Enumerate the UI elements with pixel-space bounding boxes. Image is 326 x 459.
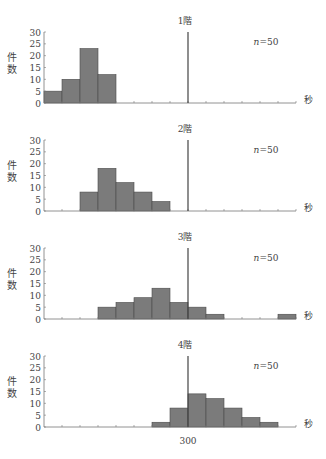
histogram-bar — [170, 408, 188, 427]
sample-size-label: n=50 — [254, 37, 279, 47]
histogram-bar — [152, 202, 170, 211]
histogram-bar — [116, 183, 134, 211]
histogram-bar — [242, 418, 260, 427]
histogram-figure: 1階n=50051015202530件数秒2階n=50051015202530件… — [0, 0, 326, 459]
histogram-bars — [152, 394, 278, 427]
y-axis-label-char: 件 — [7, 268, 17, 279]
histogram-bar — [152, 288, 170, 319]
histogram-bar — [188, 394, 206, 427]
y-tick-label: 10 — [30, 399, 42, 409]
histogram-bar — [80, 192, 98, 211]
sample-size-label: n=50 — [254, 361, 279, 371]
histogram-bars — [98, 288, 296, 319]
y-axis-label-char: 数 — [7, 63, 17, 75]
histogram-bar — [134, 298, 152, 319]
histogram-bar — [116, 302, 134, 319]
y-tick-label: 5 — [35, 303, 41, 313]
histogram-panel-floor-3: 3階n=50051015202530件数秒 — [7, 232, 313, 325]
panel-title: 4階 — [178, 340, 193, 350]
y-tick-label: 0 — [35, 423, 41, 433]
panel-title: 2階 — [178, 124, 193, 134]
histogram-bar — [80, 49, 98, 103]
y-axis-label-char: 数 — [7, 279, 17, 291]
histogram-bar — [278, 314, 296, 319]
histogram-bar — [188, 307, 206, 319]
histogram-panel-floor-1: 1階n=50051015202530件数秒 — [7, 16, 313, 109]
y-tick-label: 5 — [35, 411, 41, 421]
histogram-bar — [44, 91, 62, 103]
y-axis-label-char: 数 — [7, 387, 17, 399]
y-tick-label: 15 — [30, 279, 42, 289]
y-tick-label: 5 — [35, 195, 41, 205]
histogram-bars — [44, 49, 116, 103]
y-axis-label-char: 件 — [7, 160, 17, 171]
y-tick-label: 20 — [30, 267, 42, 277]
y-tick-label: 20 — [30, 375, 42, 385]
histogram-bar — [206, 399, 224, 427]
y-axis-label-char: 数 — [7, 171, 17, 183]
panel-title: 1階 — [178, 16, 193, 26]
histogram-bar — [98, 75, 116, 103]
y-tick-label: 30 — [30, 136, 42, 146]
y-tick-label: 10 — [30, 183, 42, 193]
y-tick-label: 20 — [30, 51, 42, 61]
y-tick-label: 0 — [35, 315, 41, 325]
x-axis-label: 秒 — [304, 310, 313, 321]
histogram-bars — [80, 168, 170, 211]
y-tick-label: 0 — [35, 99, 41, 109]
y-axis-label-char: 件 — [7, 376, 17, 387]
y-tick-label: 25 — [30, 255, 42, 265]
x-axis-label: 秒 — [304, 202, 313, 213]
y-tick-label: 25 — [30, 147, 42, 157]
y-tick-label: 10 — [30, 75, 42, 85]
y-tick-label: 30 — [30, 244, 42, 254]
y-tick-label: 15 — [30, 171, 42, 181]
x-axis-label: 秒 — [304, 94, 313, 105]
y-tick-label: 15 — [30, 387, 42, 397]
y-tick-label: 20 — [30, 159, 42, 169]
histogram-bar — [260, 422, 278, 427]
histogram-bar — [98, 168, 116, 211]
histogram-bar — [134, 192, 152, 211]
y-tick-label: 0 — [35, 207, 41, 217]
y-tick-label: 15 — [30, 63, 42, 73]
histogram-bar — [224, 408, 242, 427]
y-tick-label: 5 — [35, 87, 41, 97]
reference-line-label: 300 — [179, 436, 196, 446]
y-tick-label: 10 — [30, 291, 42, 301]
histogram-panel-floor-4: 4階n=50051015202530件数秒300 — [7, 340, 313, 446]
panel-title: 3階 — [178, 232, 193, 242]
histogram-bar — [170, 302, 188, 319]
histogram-panel-floor-2: 2階n=50051015202530件数秒 — [7, 124, 313, 217]
histogram-bar — [62, 79, 80, 103]
sample-size-label: n=50 — [254, 253, 279, 263]
y-axis-label-char: 件 — [7, 52, 17, 63]
y-tick-label: 25 — [30, 363, 42, 373]
histogram-bar — [98, 307, 116, 319]
y-tick-label: 30 — [30, 28, 42, 38]
y-tick-label: 25 — [30, 39, 42, 49]
histogram-bar — [206, 314, 224, 319]
x-axis-label: 秒 — [304, 418, 313, 429]
histogram-bar — [152, 422, 170, 427]
y-tick-label: 30 — [30, 352, 42, 362]
sample-size-label: n=50 — [254, 145, 279, 155]
